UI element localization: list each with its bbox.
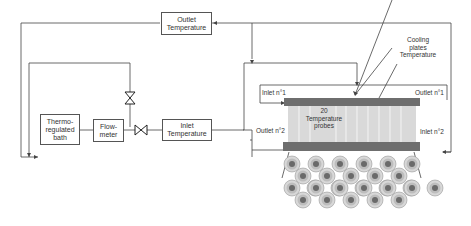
probes-label: 20 Temperature probes	[303, 107, 345, 130]
inlet-2-label: Inlet n°2	[420, 128, 444, 136]
valve-icon	[125, 92, 147, 135]
thermo-bath-label: Thermo-regulated bath	[44, 118, 76, 142]
inlet-temperature-label: Inlet Temperature	[165, 122, 209, 138]
outlet-1-label: Outlet n°1	[415, 89, 444, 97]
inlet-temperature-box: Inlet Temperature	[162, 119, 212, 141]
flowmeter-label: Flow-meter	[97, 123, 121, 139]
battery-cells	[284, 156, 443, 208]
outlet-2-label: Outlet n°2	[256, 127, 285, 135]
inlet-1-label: Inlet n°1	[262, 89, 286, 97]
cooling-plate-top	[284, 98, 420, 106]
outlet-temperature-box: Outlet Temperature	[161, 12, 212, 35]
diagram-lines	[0, 0, 471, 226]
cooling-plate-bottom	[283, 142, 420, 151]
thermo-bath-box: Thermo-regulated bath	[40, 114, 80, 145]
cooling-plates-label: Cooling plates Temperature	[398, 36, 438, 59]
outlet-temperature-label: Outlet Temperature	[162, 16, 211, 32]
flowmeter-box: Flow-meter	[93, 119, 124, 142]
